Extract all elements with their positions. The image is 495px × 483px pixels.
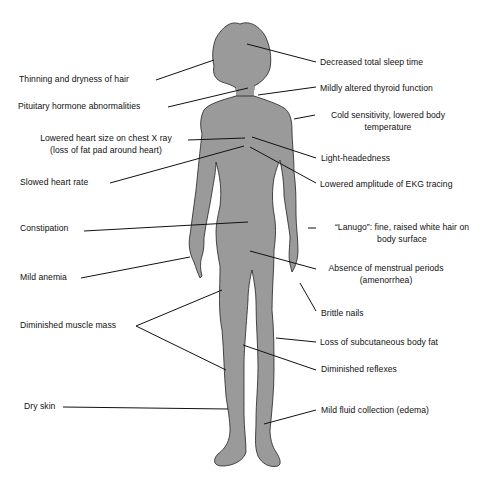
leader-line-muscle-upper [136, 290, 222, 326]
label-lanugo: “Lanugo”: fine, raised white hair on bod… [318, 221, 486, 245]
leader-line-muscle-lower [136, 326, 226, 370]
label-dry-skin: Dry skin [24, 400, 55, 412]
label-anemia: Mild anemia [20, 271, 67, 283]
label-nails: Brittle nails [321, 307, 364, 319]
label-thyroid: Mildly altered thyroid function [320, 82, 433, 94]
label-ekg: Lowered amplitude of EKG tracing [320, 178, 453, 190]
label-sleep: Decreased total sleep time [320, 56, 423, 68]
label-muscle: Diminished muscle mass [20, 319, 116, 331]
leader-line-thyroid [258, 87, 316, 95]
leader-line-cold [294, 115, 315, 119]
label-light-headedness: Light-headedness [321, 152, 390, 164]
label-heart-size: Lowered heart size on chest X ray (loss … [22, 132, 190, 156]
label-cold: Cold sensitivity, lowered body temperatu… [318, 109, 458, 133]
label-reflexes: Diminished reflexes [321, 363, 397, 375]
label-edema: Mild fluid collection (edema) [321, 404, 429, 416]
label-hair: Thinning and dryness of hair [19, 73, 129, 85]
label-constipation: Constipation [20, 222, 68, 234]
leader-line-anemia [81, 257, 190, 278]
label-subcutaneous-fat: Loss of subcutaneous body fat [320, 336, 438, 348]
label-pituitary: Pituitary hormone abnormalities [18, 100, 140, 112]
leader-line-reflexes [243, 345, 316, 370]
anorexia-effects-diagram: Thinning and dryness of hair Pituitary h… [0, 0, 495, 483]
leader-line-hair [156, 60, 214, 80]
label-heart-rate: Slowed heart rate [20, 176, 88, 188]
leader-line-dry-skin [63, 407, 228, 409]
label-amenorrhea: Absence of menstrual periods (amenorrhea… [318, 262, 454, 286]
leader-line-subcutaneous-fat [276, 338, 316, 342]
leader-line-nails [300, 283, 316, 311]
